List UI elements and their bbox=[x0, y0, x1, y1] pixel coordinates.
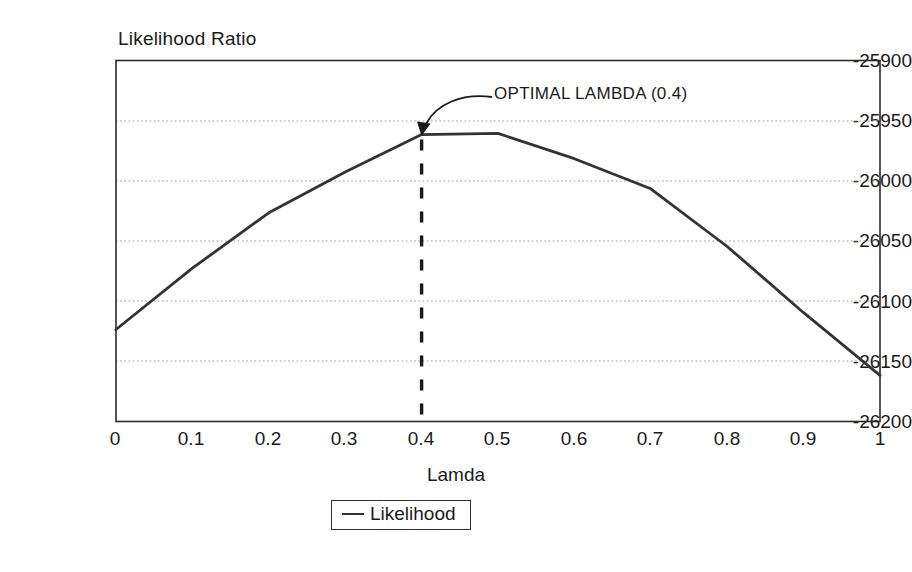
legend-label: Likelihood bbox=[370, 504, 456, 525]
likelihood-ratio-chart: Likelihood Ratio -25900 -25950 -26000 -2… bbox=[0, 0, 912, 572]
optimal-lambda-annotation: OPTIMAL LAMBDA (0.4) bbox=[494, 84, 687, 104]
likelihood-series-line bbox=[116, 133, 880, 375]
legend: Likelihood bbox=[331, 500, 471, 530]
x-axis-title: Lamda bbox=[0, 464, 912, 486]
annotation-arrow-icon bbox=[417, 96, 492, 136]
plot-canvas bbox=[0, 0, 912, 572]
legend-line-swatch bbox=[342, 513, 364, 515]
